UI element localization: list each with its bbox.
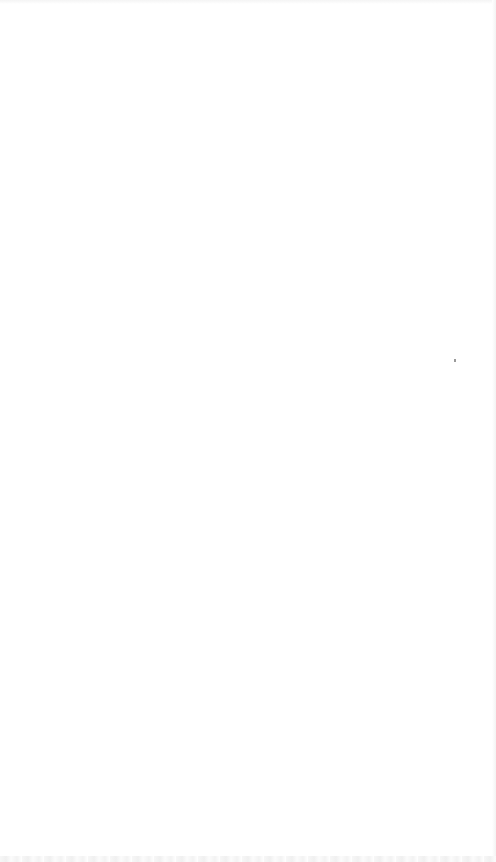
pixel-artifact [454, 359, 456, 362]
bottom-edge-artifact [0, 856, 496, 862]
blank-page [0, 0, 496, 862]
right-edge-artifact [492, 0, 496, 862]
top-edge-artifact [0, 0, 496, 4]
